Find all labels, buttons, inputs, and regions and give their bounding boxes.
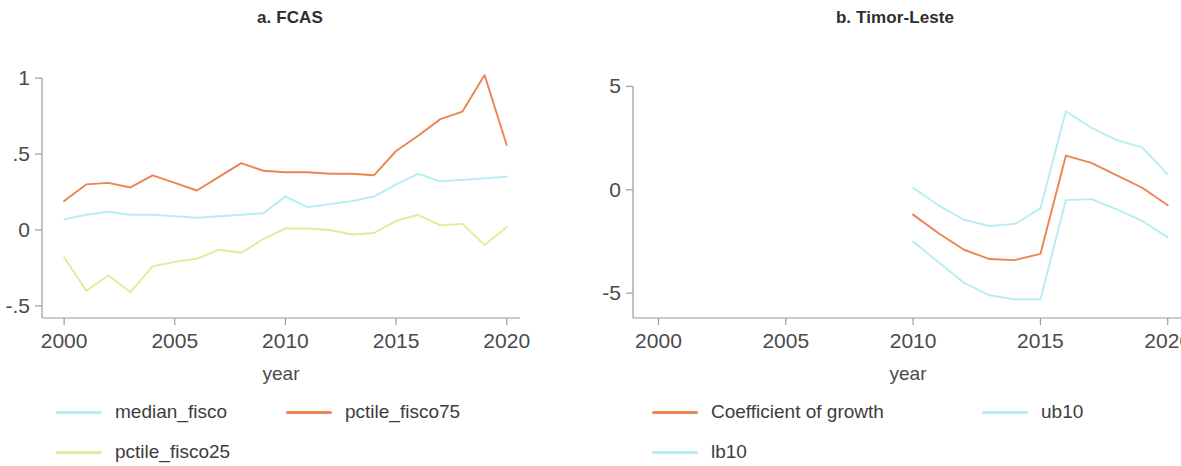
panel-timor-leste: b. Timor-Leste -50520002005201020152020y… xyxy=(590,0,1180,466)
svg-text:0: 0 xyxy=(609,178,621,201)
legend-timor-leste: Coefficient of growth ub10 lb10 xyxy=(590,392,1181,466)
legend-row: pctile_fisco25 xyxy=(56,432,646,466)
panel-fcas: a. FCAS -.50.5120002005201020152020year … xyxy=(0,0,590,466)
svg-text:0: 0 xyxy=(18,218,30,241)
legend-item-coefficient-of-growth[interactable]: Coefficient of growth xyxy=(652,401,982,423)
legend-row: Coefficient of growth ub10 xyxy=(652,392,1181,432)
legend-row: median_fisco pctile_fisco75 xyxy=(56,392,646,432)
svg-text:1: 1 xyxy=(18,66,30,89)
line-swatch-icon xyxy=(286,411,332,414)
svg-text:2020: 2020 xyxy=(1144,329,1181,352)
plot-area-timor-leste: -50520002005201020152020year xyxy=(590,0,1181,390)
line-swatch-icon xyxy=(56,411,102,414)
svg-text:2000: 2000 xyxy=(41,329,88,352)
legend-label: median_fisco xyxy=(115,401,227,423)
legend-label: Coefficient of growth xyxy=(711,401,884,423)
line-swatch-icon xyxy=(56,451,102,454)
line-swatch-icon xyxy=(652,451,698,454)
svg-text:year: year xyxy=(890,363,928,384)
svg-text:2020: 2020 xyxy=(483,329,530,352)
legend-row: lb10 xyxy=(652,432,1181,466)
svg-text:5: 5 xyxy=(609,74,621,97)
svg-text:-.5: -.5 xyxy=(5,294,30,317)
svg-text:2010: 2010 xyxy=(890,329,937,352)
plot-area-fcas: -.50.5120002005201020152020year xyxy=(0,0,590,390)
svg-text:year: year xyxy=(263,363,301,384)
legend-item-pctile-fisco75[interactable]: pctile_fisco75 xyxy=(286,401,516,423)
legend-label: ub10 xyxy=(1041,401,1083,423)
legend-item-ub10[interactable]: ub10 xyxy=(982,401,1181,423)
svg-text:-5: -5 xyxy=(602,281,621,304)
legend-item-lb10[interactable]: lb10 xyxy=(652,441,982,463)
line-swatch-icon xyxy=(652,411,698,414)
legend-label: lb10 xyxy=(711,441,747,463)
svg-text:2005: 2005 xyxy=(762,329,809,352)
line-swatch-icon xyxy=(982,411,1028,414)
legend-label: pctile_fisco25 xyxy=(115,441,230,463)
figure-two-panel-line-charts: a. FCAS -.50.5120002005201020152020year … xyxy=(0,0,1181,466)
svg-text:2015: 2015 xyxy=(373,329,420,352)
legend-item-pctile-fisco25[interactable]: pctile_fisco25 xyxy=(56,441,286,463)
svg-text:2015: 2015 xyxy=(1017,329,1064,352)
svg-text:.5: .5 xyxy=(12,142,30,165)
legend-fcas: median_fisco pctile_fisco75 pctile_fisco… xyxy=(0,392,646,466)
svg-text:2005: 2005 xyxy=(151,329,198,352)
legend-label: pctile_fisco75 xyxy=(345,401,460,423)
svg-text:2000: 2000 xyxy=(635,329,682,352)
svg-text:2010: 2010 xyxy=(262,329,309,352)
legend-item-median-fisco[interactable]: median_fisco xyxy=(56,401,286,423)
